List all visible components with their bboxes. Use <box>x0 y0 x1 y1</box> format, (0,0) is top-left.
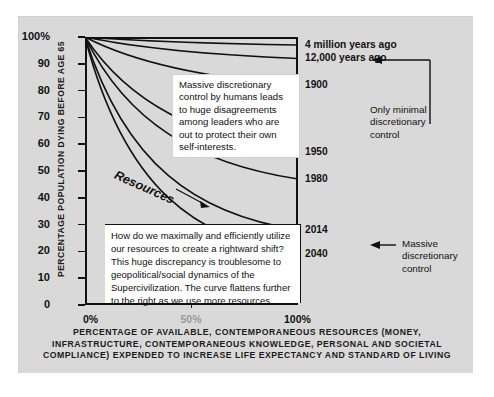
y-tick-label-0: 0 <box>44 298 50 310</box>
y-tick-0 <box>78 304 85 306</box>
annotation-massive-control: Massive discretionary control <box>402 238 458 275</box>
y-tick-label-10: 10 <box>38 271 50 283</box>
y-tick-label-90: 90 <box>38 57 50 69</box>
curve-end-label-4-million-years-ago: 4 million years ago <box>305 39 397 50</box>
y-tick-label-70: 70 <box>38 110 50 122</box>
y-tick-label-30: 30 <box>38 218 50 230</box>
y-tick-20 <box>78 251 85 253</box>
x-tick-label-0: 0% <box>83 313 98 325</box>
callout-top: Massive discretionary control by humans … <box>172 74 300 158</box>
curve-12-000-years-ago <box>85 37 298 58</box>
y-tick-label-20: 20 <box>38 244 50 256</box>
chart-panel: PERCENTAGE POPULATION DYING BEFORE AGE 6… <box>18 16 473 373</box>
figure-root: PERCENTAGE POPULATION DYING BEFORE AGE 6… <box>0 0 494 397</box>
y-tick-label-100: 100% <box>22 30 50 42</box>
y-tick-30 <box>78 224 85 226</box>
y-axis-tick-labels: 100%9080706050403020100 <box>6 37 50 305</box>
curve-end-label-2040: 2040 <box>305 248 328 259</box>
curve-end-label-1950: 1950 <box>305 146 328 157</box>
y-tick-70 <box>78 117 85 119</box>
curve-end-label-1900: 1900 <box>305 79 328 90</box>
y-tick-10 <box>78 277 85 279</box>
x-tick-label-100: 100% <box>284 313 311 325</box>
massive-control-arrow-head <box>370 241 380 249</box>
x-axis-caption: PERCENTAGE OF AVAILABLE, CONTEMPORANEOUS… <box>40 327 454 362</box>
y-tick-90 <box>78 63 85 65</box>
curve-end-label-2014: 2014 <box>305 224 328 235</box>
y-tick-40 <box>78 197 85 199</box>
x-tick-label-50: 50% <box>181 313 202 325</box>
y-tick-80 <box>78 90 85 92</box>
y-tick-50 <box>78 170 85 172</box>
y-tick-label-50: 50 <box>38 164 50 176</box>
curve-end-label-1980: 1980 <box>305 173 328 184</box>
y-axis-title: PERCENTAGE POPULATION DYING BEFORE AGE 6… <box>56 24 66 294</box>
y-tick-100 <box>78 36 85 38</box>
curve-end-label-12-000-years-ago: 12,000 years ago <box>305 52 387 63</box>
y-tick-label-80: 80 <box>38 84 50 96</box>
annotation-minimal-control: Only minimal discretionary control <box>370 104 427 141</box>
callout-bottom: How do we maximally and efficiently util… <box>105 224 301 303</box>
y-tick-label-40: 40 <box>38 191 50 203</box>
y-tick-60 <box>78 143 85 145</box>
curve-4-million-years-ago <box>85 37 298 45</box>
y-tick-label-60: 60 <box>38 137 50 149</box>
